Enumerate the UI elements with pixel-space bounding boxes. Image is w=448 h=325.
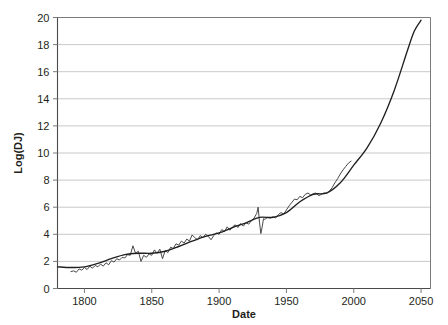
- y-tick-label: 0: [43, 283, 49, 295]
- x-tick-label: 2000: [342, 295, 366, 307]
- y-tick-label: 10: [37, 147, 49, 159]
- x-tick-label: 1950: [274, 295, 298, 307]
- x-tick-label: 1850: [140, 295, 164, 307]
- y-tick-label: 16: [37, 66, 49, 78]
- y-tick-label: 4: [43, 228, 49, 240]
- x-tick-label: 1800: [72, 295, 96, 307]
- y-tick-label: 2: [43, 255, 49, 267]
- y-tick-label: 18: [37, 39, 49, 51]
- y-axis-title: Log(DJ): [12, 132, 24, 174]
- log-dj-line-chart: 180018501900195020002050 024681012141618…: [0, 0, 448, 325]
- x-axis-title: Date: [232, 308, 256, 320]
- x-tick-label: 2050: [409, 295, 433, 307]
- y-tick-label: 12: [37, 120, 49, 132]
- y-tick-label: 6: [43, 201, 49, 213]
- y-tick-label: 14: [37, 93, 49, 105]
- chart-background: [0, 0, 448, 325]
- x-tick-label: 1900: [207, 295, 231, 307]
- chart-figure: 180018501900195020002050 024681012141618…: [0, 0, 448, 325]
- y-tick-label: 8: [43, 174, 49, 186]
- y-tick-label: 20: [37, 12, 49, 24]
